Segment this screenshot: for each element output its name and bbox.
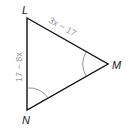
- angle-arc-n: [27, 88, 48, 98]
- triangle-diagram: L M N 3x − 17 17 − 8x: [0, 0, 131, 128]
- side-label-ln: 17 − 8x: [14, 52, 24, 82]
- vertex-label-n: N: [22, 114, 30, 126]
- vertex-label-l: L: [22, 4, 28, 16]
- vertex-label-m: M: [112, 59, 122, 71]
- side-label-lm: 3x − 17: [47, 15, 78, 38]
- angle-arc-m: [83, 52, 86, 76]
